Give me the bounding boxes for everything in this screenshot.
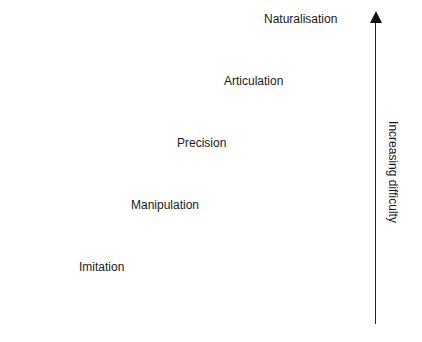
axis-label: Increasing difficulty xyxy=(386,121,400,223)
arrow-up-icon xyxy=(370,11,382,23)
level-imitation: Imitation xyxy=(79,260,124,274)
level-articulation: Articulation xyxy=(224,74,283,88)
level-manipulation: Manipulation xyxy=(131,198,199,212)
level-precision: Precision xyxy=(177,136,226,150)
arrow-line xyxy=(375,20,376,324)
level-naturalisation: Naturalisation xyxy=(264,12,337,26)
